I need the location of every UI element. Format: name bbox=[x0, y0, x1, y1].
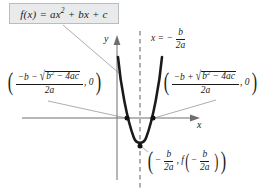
vertex-inner-denominator: 2a bbox=[198, 162, 212, 173]
right-paren-open: ( bbox=[164, 73, 169, 92]
vertex-pair: (− b 2a , f(− b 2a )) bbox=[146, 150, 228, 172]
fn-eq-sign: = bbox=[39, 8, 47, 20]
function-formula-box: f(x) = ax2 + bx + c bbox=[9, 3, 119, 24]
vertex-inner-paren-close: ) bbox=[214, 154, 218, 169]
right-root-radical: √b2 − 4ac bbox=[195, 70, 236, 82]
left-root-pair: ( −b −√b2 − 4ac 2a , 0) bbox=[6, 70, 102, 95]
right-root-numerator: −b +√b2 − 4ac bbox=[172, 70, 239, 85]
sym-eq: = bbox=[158, 33, 164, 43]
vertex-x-minus: − bbox=[155, 156, 161, 166]
function-formula-text: f(x) = ax2 + bx + c bbox=[20, 8, 107, 20]
right-root-radicand: b2 − 4ac bbox=[201, 71, 236, 82]
vertex-comma: , bbox=[177, 156, 179, 166]
y-axis-arrowhead bbox=[114, 35, 121, 45]
vertex-x-fraction: b 2a bbox=[162, 150, 176, 172]
sym-fraction: b 2a bbox=[174, 28, 188, 50]
right-root-denominator: 2a bbox=[199, 85, 213, 96]
vertex-x-denominator: 2a bbox=[162, 162, 176, 173]
left-root-radicand: b2 − 4ac bbox=[45, 71, 80, 82]
fn-name: f(x) bbox=[20, 8, 36, 20]
left-radicand-rest: − 4ac bbox=[57, 71, 80, 81]
right-root-label: ( −b +√b2 − 4ac 2a , 0) bbox=[162, 70, 258, 95]
axis-of-symmetry-label: x = − b 2a bbox=[151, 28, 188, 50]
right-root-y-coord: , 0 bbox=[240, 78, 250, 88]
vertex-point bbox=[138, 144, 143, 149]
vertex-inner-minus: − bbox=[191, 156, 197, 166]
right-radicand-exp: 2 bbox=[207, 69, 210, 76]
left-root-fraction: −b −√b2 − 4ac 2a bbox=[16, 70, 83, 95]
left-root-num-lead: −b − bbox=[18, 72, 38, 82]
fn-term-a-exponent: 2 bbox=[61, 6, 65, 15]
left-paren-open: ( bbox=[8, 73, 13, 92]
vertex-paren-close: ) bbox=[221, 152, 226, 171]
leader-line-left-root bbox=[48, 101, 126, 118]
sym-numerator: b bbox=[176, 28, 185, 40]
fn-term-b: + bx + c bbox=[68, 8, 108, 20]
leader-line-right-root bbox=[154, 100, 216, 118]
left-root-point bbox=[125, 116, 130, 121]
left-root-y-coord: , 0 bbox=[84, 78, 94, 88]
left-root-denominator: 2a bbox=[43, 85, 57, 96]
vertex-fn-name: f bbox=[181, 156, 184, 166]
right-root-pair: ( −b +√b2 − 4ac 2a , 0) bbox=[162, 70, 258, 95]
x-axis-label: x bbox=[197, 119, 201, 130]
right-paren-close: ) bbox=[251, 73, 256, 92]
left-radicand-exp: 2 bbox=[51, 69, 54, 76]
left-paren-close: ) bbox=[95, 73, 100, 92]
radical-sign-icon: √ bbox=[39, 68, 44, 82]
figure-canvas: f(x) = ax2 + bx + c y x x = − b 2a ( −b … bbox=[0, 0, 277, 191]
sym-denominator: 2a bbox=[174, 40, 188, 51]
leader-line-formula bbox=[63, 25, 120, 74]
left-root-numerator: −b −√b2 − 4ac bbox=[16, 70, 83, 85]
right-radicand-rest: − 4ac bbox=[213, 71, 236, 81]
right-root-fraction: −b +√b2 − 4ac 2a bbox=[172, 70, 239, 95]
vertex-inner-paren-open: ( bbox=[185, 154, 189, 169]
sym-minus: − bbox=[166, 33, 172, 43]
right-root-point bbox=[151, 116, 156, 121]
vertex-label: (− b 2a , f(− b 2a )) bbox=[146, 150, 228, 172]
left-root-label: ( −b −√b2 − 4ac 2a , 0) bbox=[6, 70, 102, 95]
vertex-inner-numerator: b bbox=[200, 150, 209, 162]
vertex-paren-open: ( bbox=[148, 152, 153, 171]
fn-term-a: ax bbox=[50, 8, 61, 20]
parabola-diagram bbox=[0, 0, 277, 191]
right-root-num-lead: −b + bbox=[174, 72, 194, 82]
vertex-x-numerator: b bbox=[164, 150, 173, 162]
sym-var: x bbox=[151, 33, 155, 43]
left-root-radical: √b2 − 4ac bbox=[39, 70, 80, 82]
y-axis-label: y bbox=[104, 33, 108, 44]
radical-sign-icon: √ bbox=[195, 68, 200, 82]
vertex-inner-fraction: b 2a bbox=[198, 150, 212, 172]
